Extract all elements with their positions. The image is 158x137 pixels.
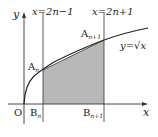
point-An-label: An [27,61,39,73]
x-axis-label: x [143,106,150,119]
diagram: y x O x=2n−1 x=2n+1 y=√x An An+1 Bn Bn+1 [0,0,158,137]
diagram-canvas: y x O x=2n−1 x=2n+1 y=√x An An+1 Bn Bn+1 [0,0,158,137]
point-Bn1-label: Bn+1 [83,107,103,119]
shaded-region [43,40,104,104]
left-line-label: x=2n−1 [32,6,74,17]
y-axis-label: y [12,8,20,21]
right-line-label: x=2n+1 [92,6,134,17]
origin-label: O [14,107,22,118]
point-An1-label: An+1 [80,28,101,40]
y-axis-arrow-icon [22,12,26,18]
curve-label: y=√x [119,40,146,51]
point-Bn-label: Bn [30,107,41,119]
